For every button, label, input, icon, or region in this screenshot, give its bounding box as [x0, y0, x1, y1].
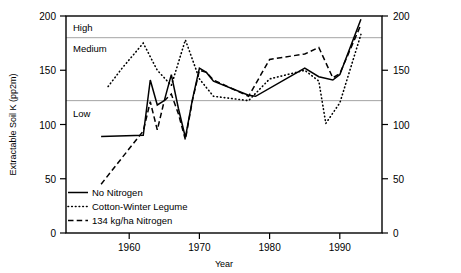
y-tick-label-100: 100: [39, 120, 56, 131]
y-tick-label-0: 0: [50, 228, 56, 239]
x-tick-label-1990: 1990: [329, 242, 352, 253]
x-tick-label-1980: 1980: [258, 242, 281, 253]
y-axis-title: Extractable Soil K (pp2m): [8, 73, 18, 175]
chart-figure: High Medium Low 200 150 100 50 0 200: [0, 0, 461, 273]
y-tick-label-right-200: 200: [393, 11, 410, 22]
y-tick-label-right-50: 50: [393, 174, 405, 185]
y-tick-label-right-150: 150: [393, 65, 410, 76]
soil-potassium-line-chart: High Medium Low 200 150 100 50 0 200: [0, 0, 461, 273]
legend-label-no-nitrogen: No Nitrogen: [92, 187, 143, 198]
zone-label-medium: Medium: [73, 43, 107, 54]
legend-label-cotton-winter-legume: Cotton-Winter Legume: [92, 201, 188, 212]
chart-background: [0, 0, 461, 273]
y-tick-label-right-100: 100: [393, 120, 410, 131]
y-tick-label-right-0: 0: [393, 228, 399, 239]
y-tick-label-150: 150: [39, 65, 56, 76]
x-tick-label-1960: 1960: [118, 242, 141, 253]
y-tick-label-200: 200: [39, 11, 56, 22]
zone-label-low: Low: [73, 108, 91, 119]
x-axis-title: Year: [215, 259, 233, 269]
legend-label-134-kg-ha-nitrogen: 134 kg/ha Nitrogen: [92, 215, 172, 226]
zone-label-high: High: [73, 22, 93, 33]
x-tick-label-1970: 1970: [188, 242, 211, 253]
y-tick-label-50: 50: [45, 174, 57, 185]
